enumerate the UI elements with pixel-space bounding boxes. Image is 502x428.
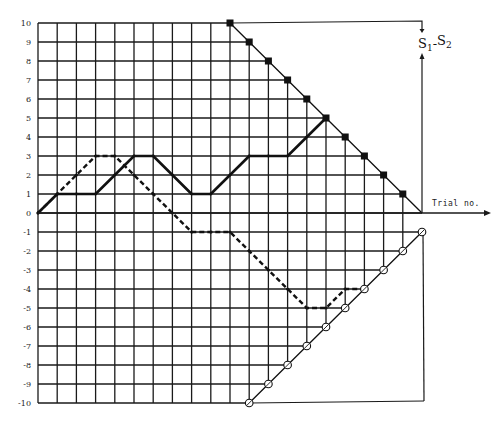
square-marker-icon bbox=[246, 39, 253, 46]
square-marker-icon bbox=[380, 172, 387, 179]
y-tick-label: 4 bbox=[26, 133, 31, 142]
y-tick-label: 1 bbox=[26, 190, 31, 199]
y-tick-label: 3 bbox=[26, 152, 31, 161]
y-tick-label: -9 bbox=[23, 380, 31, 389]
y-tick-label: -6 bbox=[23, 323, 31, 332]
square-marker-icon bbox=[284, 77, 291, 84]
square-marker-icon bbox=[227, 20, 234, 27]
y-tick-label: -2 bbox=[23, 247, 31, 256]
y-tick-label: 8 bbox=[26, 57, 31, 66]
square-marker-icon bbox=[323, 115, 330, 122]
lower-boundary-line bbox=[249, 232, 422, 403]
square-marker-icon bbox=[265, 58, 272, 65]
y-tick-label: -4 bbox=[23, 285, 31, 294]
square-marker-icon bbox=[361, 153, 368, 160]
y-tick-label: -5 bbox=[23, 304, 31, 313]
y-tick-label: 7 bbox=[26, 76, 31, 85]
y-tick-label: -8 bbox=[23, 361, 31, 370]
y-tick-label: 9 bbox=[26, 38, 31, 47]
y-tick-label: -1 bbox=[23, 228, 31, 237]
square-marker-icon bbox=[303, 96, 310, 103]
y-tick-label: -7 bbox=[23, 342, 31, 351]
y-tick-labels: 109876543210-1-2-3-4-5-6-7-8-9-10 bbox=[18, 19, 31, 408]
y-tick-label: 2 bbox=[26, 171, 31, 180]
y-tick-label: 5 bbox=[26, 114, 31, 123]
y-tick-label: -10 bbox=[18, 399, 31, 408]
y-axis-label: S1-S2 bbox=[418, 33, 452, 53]
sequential-test-chart: 109876543210-1-2-3-4-5-6-7-8-9-10 S1-S2 … bbox=[0, 0, 502, 428]
y-tick-label: 6 bbox=[26, 95, 31, 104]
axes bbox=[38, 53, 491, 216]
y-tick-label: 10 bbox=[21, 19, 31, 28]
y-tick-label: -3 bbox=[23, 266, 31, 275]
x-axis-label: Trial no. bbox=[432, 199, 480, 208]
square-marker-icon bbox=[342, 134, 349, 141]
y-axis-arrow-icon bbox=[420, 53, 425, 59]
square-marker-icon bbox=[399, 191, 406, 198]
y-tick-label: 0 bbox=[26, 209, 31, 218]
solid-path-line bbox=[38, 118, 326, 213]
x-axis-arrow-icon bbox=[484, 210, 491, 216]
